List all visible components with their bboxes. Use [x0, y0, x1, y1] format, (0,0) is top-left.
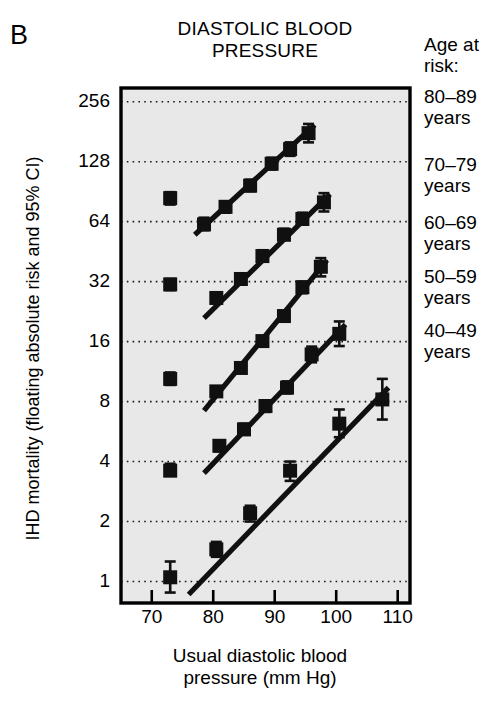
data-point-marker — [332, 417, 346, 431]
data-point-marker — [375, 392, 389, 406]
data-point-marker — [163, 277, 177, 291]
x-tick-label-110: 110 — [368, 606, 428, 628]
data-point-marker — [305, 347, 319, 361]
data-point-marker — [163, 191, 177, 205]
x-tick-label-90: 90 — [245, 606, 305, 628]
data-point-marker — [163, 372, 177, 386]
x-tick-label-100: 100 — [306, 606, 366, 628]
data-point-marker — [212, 439, 226, 453]
data-point-marker — [255, 334, 269, 348]
data-point-marker — [295, 212, 309, 226]
data-point-marker — [317, 195, 331, 209]
figure-panel-b: B DIASTOLIC BLOOD PRESSURE Age at risk: … — [0, 0, 500, 711]
data-point-marker — [332, 327, 346, 341]
data-point-marker — [302, 126, 316, 140]
data-point-marker — [243, 179, 257, 193]
data-point-marker — [163, 464, 177, 478]
data-point-marker — [163, 570, 177, 584]
data-point-marker — [277, 309, 291, 323]
data-point-marker — [219, 200, 233, 214]
y-tick-label-16: 16 — [48, 330, 110, 352]
data-point-marker — [234, 272, 248, 286]
y-tick-label-64: 64 — [48, 210, 110, 232]
data-point-marker — [209, 384, 223, 398]
data-point-marker — [237, 422, 251, 436]
data-point-marker — [209, 291, 223, 305]
x-tick-label-70: 70 — [122, 606, 182, 628]
data-point-marker — [243, 506, 257, 520]
data-point-marker — [295, 280, 309, 294]
data-point-marker — [314, 260, 328, 274]
data-point-marker — [255, 249, 269, 263]
y-tick-label-2: 2 — [48, 510, 110, 532]
data-point-marker — [283, 142, 297, 156]
y-tick-label-32: 32 — [48, 270, 110, 292]
data-point-marker — [197, 217, 211, 231]
y-tick-label-128: 128 — [48, 150, 110, 172]
y-tick-label-1: 1 — [48, 570, 110, 592]
data-point-marker — [234, 361, 248, 375]
data-point-marker — [209, 542, 223, 556]
data-point-marker — [277, 228, 291, 242]
data-point-marker — [280, 381, 294, 395]
x-tick-label-80: 80 — [183, 606, 243, 628]
y-tick-label-4: 4 — [48, 450, 110, 472]
y-tick-label-256: 256 — [48, 90, 110, 112]
y-tick-label-8: 8 — [48, 390, 110, 412]
data-point-marker — [283, 464, 297, 478]
data-point-marker — [265, 157, 279, 171]
data-point-marker — [259, 399, 273, 413]
